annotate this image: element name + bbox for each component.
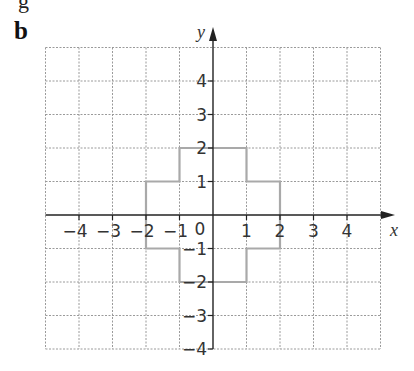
y-tick-label: −3 <box>182 306 207 326</box>
y-tick-label: −2 <box>182 272 207 292</box>
axes <box>46 27 396 349</box>
x-tick-label: −2 <box>129 221 154 241</box>
x-tick-label: −3 <box>96 221 121 241</box>
y-tick-label: −4 <box>182 339 207 359</box>
x-tick-label: 3 <box>308 221 319 241</box>
x-tick-label: 4 <box>342 221 353 241</box>
y-tick-label: 1 <box>196 172 207 192</box>
y-tick-label: 3 <box>196 105 207 125</box>
coordinate-grid-diagram: −4−3−2−112344321−1−2−3−40xy <box>0 0 414 371</box>
y-tick-label: 2 <box>196 138 207 158</box>
x-axis-arrow-icon <box>381 211 395 219</box>
x-tick-label: 1 <box>241 221 252 241</box>
x-tick-label: −4 <box>62 221 87 241</box>
y-tick-label: −1 <box>182 239 207 259</box>
y-axis-label: y <box>195 22 205 42</box>
x-tick-label: 2 <box>275 221 286 241</box>
x-axis-label: x <box>389 220 398 240</box>
y-tick-label: 4 <box>196 71 207 91</box>
y-axis-arrow-icon <box>209 27 217 41</box>
origin-label: 0 <box>195 219 206 239</box>
